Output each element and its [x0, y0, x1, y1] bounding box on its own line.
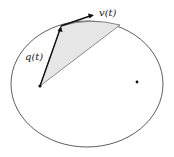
second-focus-dot [136, 81, 139, 84]
position-label: q(t) [25, 51, 43, 62]
velocity-arrowhead-icon [88, 14, 94, 19]
focus-sun-dot [38, 84, 41, 87]
orbit-diagram: q(t) v(t) [0, 0, 174, 157]
velocity-label: v(t) [99, 7, 117, 18]
